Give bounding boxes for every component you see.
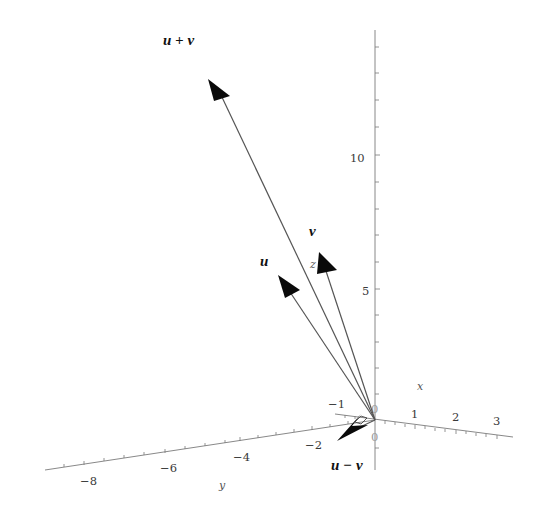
- z-axis-label: z: [309, 258, 316, 271]
- arrowhead-icon: [278, 275, 300, 298]
- z-tick-5: 5: [362, 284, 369, 298]
- x-tick-2: 2: [452, 410, 459, 424]
- arrowhead-icon: [208, 79, 230, 101]
- label-u-minus-v: u − v: [331, 457, 363, 473]
- z-tick-10: 10: [350, 151, 365, 165]
- x-axis-label: x: [417, 380, 424, 393]
- y-tick-neg6: −6: [160, 461, 177, 475]
- y-tick-neg2: −2: [305, 438, 322, 452]
- y-axis: −8 −6 −4 −2 y: [45, 420, 375, 492]
- vector-u: [278, 275, 375, 420]
- arrowhead-icon: [317, 252, 337, 274]
- y-tick-neg4: −4: [233, 450, 250, 464]
- vector-u-plus-v: [208, 79, 375, 420]
- vector-plot-3d: 10 5 0 0 1 2 3 x −1: [0, 0, 544, 517]
- x-tick-1: 1: [411, 407, 418, 421]
- x-tick-neg1: −1: [328, 397, 345, 411]
- label-u-plus-v: u + v: [163, 32, 194, 48]
- label-v: v: [309, 223, 316, 239]
- label-u: u: [260, 253, 268, 269]
- x-tick-3: 3: [493, 414, 500, 428]
- y-axis-label: y: [218, 479, 226, 492]
- vector-v: [317, 252, 375, 420]
- z-tick-0-bottom: 0: [371, 430, 378, 444]
- y-tick-neg8: −8: [80, 474, 97, 488]
